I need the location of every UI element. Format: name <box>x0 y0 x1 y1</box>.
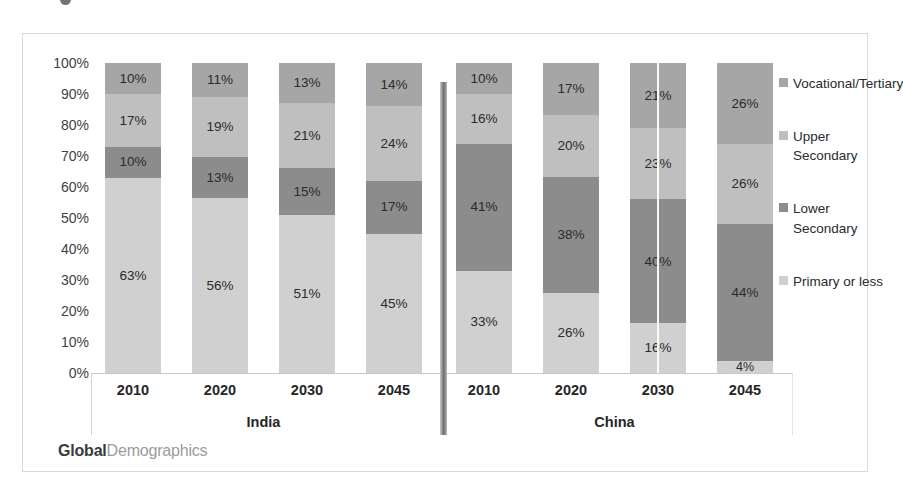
x-axis-group-label: China <box>525 415 705 430</box>
bar-segment[interactable]: 63% <box>105 178 161 373</box>
bar-segment[interactable]: 16% <box>456 94 512 144</box>
x-axis-tick: 2020 <box>531 383 611 398</box>
x-axis-tick: 2030 <box>618 383 698 398</box>
stacked-bar[interactable]: 13%21%15%51% <box>279 63 335 373</box>
bar-segment-label: 63% <box>119 269 146 283</box>
bar-segment-label: 40% <box>644 255 671 269</box>
bar-segment[interactable]: 13% <box>192 157 248 198</box>
bar-segment[interactable]: 17% <box>105 94 161 147</box>
y-axis-tick: 60% <box>37 180 89 194</box>
legend-label: Lower Secondary <box>793 199 891 237</box>
bar-segment[interactable]: 10% <box>456 63 512 94</box>
bar-segment-label: 56% <box>206 279 233 293</box>
bar-segment[interactable]: 23% <box>630 128 686 199</box>
legend-item[interactable]: Upper Secondary <box>779 127 891 165</box>
bar-segment-label: 26% <box>731 97 758 111</box>
bar-segment[interactable]: 21% <box>279 103 335 168</box>
y-axis-tick: 70% <box>37 149 89 163</box>
bar-segment[interactable]: 38% <box>543 177 599 294</box>
legend-swatch-icon <box>779 276 788 285</box>
bar-segment[interactable]: 17% <box>366 181 422 234</box>
bar-segment[interactable]: 10% <box>105 63 161 94</box>
bar-segment-label: 17% <box>380 200 407 214</box>
bar-segment-label: 24% <box>380 137 407 151</box>
plot-area: 0%10%20%30%40%50%60%70%80%90%100% 10%17%… <box>23 34 869 473</box>
stacked-bar[interactable]: 11%19%13%56% <box>192 63 248 373</box>
bar-segment-label: 13% <box>206 171 233 185</box>
x-axis-tick: 2045 <box>705 383 785 398</box>
bar-segment-label: 15% <box>293 185 320 199</box>
legend-item[interactable]: Lower Secondary <box>779 199 891 237</box>
bar-segment-label: 4% <box>736 361 754 374</box>
bar-segment[interactable]: 11% <box>192 63 248 97</box>
bar-segment-label: 20% <box>557 139 584 153</box>
bar-segment[interactable]: 14% <box>366 63 422 106</box>
bar-segment[interactable]: 41% <box>456 144 512 271</box>
legend-swatch-icon <box>779 203 788 212</box>
legend-item[interactable]: Primary or less <box>779 272 891 291</box>
bar-segment[interactable]: 51% <box>279 215 335 373</box>
bar-segment-label: 11% <box>207 73 233 87</box>
bar-segment-label: 33% <box>470 315 497 329</box>
bar-segment-label: 10% <box>119 155 146 169</box>
y-axis-tick: 100% <box>37 56 89 70</box>
y-axis-tick: 40% <box>37 242 89 256</box>
bar-segment-label: 19% <box>206 120 233 134</box>
x-axis-group-label: India <box>174 415 354 430</box>
bar-segment-label: 17% <box>119 114 146 128</box>
y-axis-tick: 90% <box>37 87 89 101</box>
bar-segment[interactable]: 26% <box>543 293 599 373</box>
bar-segment-label: 16% <box>644 341 671 355</box>
y-axis-tick: 80% <box>37 118 89 132</box>
bar-segment[interactable]: 21% <box>630 63 686 128</box>
cropped-glyph-artifact <box>60 0 71 5</box>
bar-segment[interactable]: 13% <box>279 63 335 103</box>
chart-frame: 0%10%20%30%40%50%60%70%80%90%100% 10%17%… <box>22 33 868 472</box>
bar-segment-label: 41% <box>470 200 497 214</box>
bar-segment-label: 14% <box>380 78 407 92</box>
bar-segment-label: 21% <box>644 89 671 103</box>
legend-label: Upper Secondary <box>793 127 891 165</box>
y-axis-tick: 20% <box>37 304 89 318</box>
bar-segment[interactable]: 26% <box>717 63 773 144</box>
x-axis-tick: 2010 <box>444 383 524 398</box>
bar-segment-label: 17% <box>557 82 584 96</box>
bar-segment-label: 10% <box>119 72 146 86</box>
y-axis-tick: 50% <box>37 211 89 225</box>
y-axis-tick: 10% <box>37 335 89 349</box>
stacked-bar[interactable]: 14%24%17%45% <box>366 63 422 373</box>
bar-segment-label: 51% <box>293 287 320 301</box>
bar-segment[interactable]: 24% <box>366 106 422 180</box>
x-axis-tick: 2030 <box>267 383 347 398</box>
bar-segment[interactable]: 4% <box>717 361 773 374</box>
legend-item[interactable]: Vocational/Tertiary <box>779 74 891 93</box>
y-axis: 0%10%20%30%40%50%60%70%80%90%100% <box>31 34 89 473</box>
bar-segment[interactable]: 16% <box>630 323 686 373</box>
stacked-bar[interactable]: 21%23%40%16% <box>630 63 686 373</box>
bar-segment-label: 26% <box>731 177 758 191</box>
stacked-bar[interactable]: 10%16%41%33% <box>456 63 512 373</box>
bar-segment[interactable]: 56% <box>192 198 248 373</box>
legend-label: Vocational/Tertiary <box>793 74 903 93</box>
legend-swatch-icon <box>779 131 788 140</box>
brand-watermark: GlobalDemographics <box>58 443 207 459</box>
bar-segment-label: 16% <box>470 112 497 126</box>
bar-segment[interactable]: 17% <box>543 63 599 115</box>
legend-label: Primary or less <box>793 272 883 291</box>
bar-segment-label: 23% <box>644 157 671 171</box>
bar-segment[interactable]: 10% <box>105 147 161 178</box>
stacked-bar[interactable]: 17%20%38%26% <box>543 63 599 373</box>
bar-segment[interactable]: 45% <box>366 234 422 374</box>
bar-segment[interactable]: 19% <box>192 97 248 157</box>
bar-segment[interactable]: 40% <box>630 199 686 323</box>
bar-segment-label: 45% <box>380 297 407 311</box>
bar-segment[interactable]: 26% <box>717 144 773 225</box>
stacked-bar[interactable]: 10%17%10%63% <box>105 63 161 373</box>
stacked-bar[interactable]: 26%26%44%4% <box>717 63 773 373</box>
x-axis-tick: 2045 <box>354 383 434 398</box>
bar-segment[interactable]: 44% <box>717 224 773 360</box>
bar-segment[interactable]: 33% <box>456 271 512 373</box>
bar-segment[interactable]: 20% <box>543 115 599 176</box>
bar-segment-label: 44% <box>731 286 758 300</box>
bar-segment[interactable]: 15% <box>279 168 335 215</box>
